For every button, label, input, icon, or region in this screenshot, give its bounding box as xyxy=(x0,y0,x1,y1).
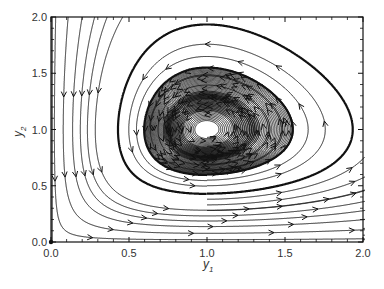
x-tick-label: 0.0 xyxy=(43,247,58,259)
streamline-open xyxy=(54,17,364,240)
y-tick-label: 1.0 xyxy=(32,124,47,136)
flow-arrowhead xyxy=(346,168,352,173)
flow-arrowhead xyxy=(143,74,148,80)
y-tick-label: 0.5 xyxy=(32,180,47,192)
flow-arrowhead xyxy=(166,64,172,69)
flow-arrowhead xyxy=(276,66,282,71)
flow-arrowhead xyxy=(261,124,266,130)
x-tick-label: 2.0 xyxy=(355,247,370,259)
y-tick-label: 2.0 xyxy=(32,11,47,23)
x-tick-label: 1.5 xyxy=(277,247,292,259)
x-axis-label: y1 xyxy=(202,257,213,274)
streamlines-layer xyxy=(52,17,365,242)
x-tick-label: 0.5 xyxy=(121,247,136,259)
y-tick-label: 1.5 xyxy=(32,67,47,79)
tick-labels-layer: 0.00.51.01.52.00.00.51.01.52.0 xyxy=(32,11,371,259)
y-tick-label: 0.0 xyxy=(32,236,47,248)
y-axis-label: y2 xyxy=(11,126,28,138)
flow-arrowhead xyxy=(299,104,304,110)
phase-portrait-chart: 0.00.51.01.52.00.00.51.01.52.0 y1 y2 xyxy=(0,0,384,289)
origin-equilibrium-point xyxy=(49,240,53,244)
streamline-closed-orbit xyxy=(207,177,365,205)
